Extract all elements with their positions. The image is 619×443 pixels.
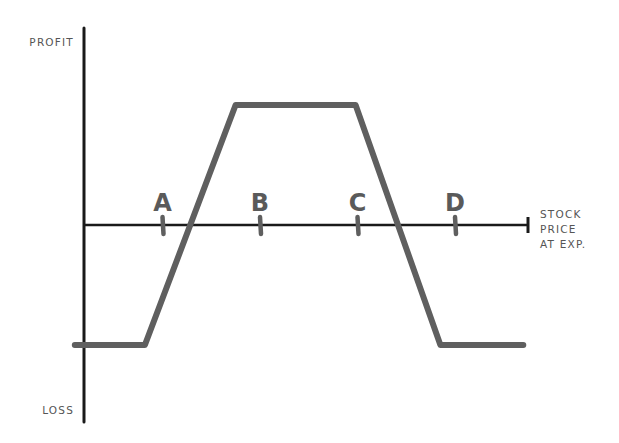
x-axis-label-line-2: PRICE [540,223,577,235]
strike-label-d: D [445,189,465,217]
strike-tick-d [455,217,456,234]
y-axis-label-loss: LOSS [42,404,74,416]
strike-tick-a [163,217,164,234]
strike-label-c: C [349,189,367,217]
y-axis-label-profit: PROFIT [29,36,74,48]
strike-label-a: A [153,189,172,217]
strike-tick-c [358,217,359,234]
strike-label-b: B [251,189,269,217]
x-axis-label-line-3: AT EXP. [540,238,586,250]
axes [84,28,528,422]
payoff-diagram: ABCDPROFITLOSSSTOCKPRICEAT EXP. [0,0,619,443]
x-axis-label-line-1: STOCK [540,208,582,220]
strike-tick-b [260,217,261,234]
